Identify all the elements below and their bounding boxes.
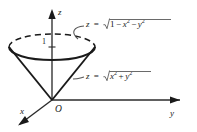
- y-axis-label: y: [169, 108, 174, 118]
- leader-line-lower: [73, 77, 84, 79]
- y-axis: [52, 97, 180, 104]
- x-axis-arrow-icon: [18, 116, 29, 126]
- plus-sign: +: [119, 71, 124, 81]
- hemisphere-radicand: 1−x2−y2: [110, 18, 145, 29]
- z-axis-label: z: [57, 7, 62, 17]
- y-axis-arrow-icon: [170, 97, 180, 104]
- hemisphere-equation-label: z = 1−x2−y2: [86, 18, 145, 29]
- hemisphere-radical: 1−x2−y2: [103, 18, 145, 29]
- x-axis-label: x: [19, 106, 24, 116]
- radical-overbar: [109, 19, 171, 20]
- figure-container: z y x 1 O z = 1−x2−y2 z = x2+y2: [0, 0, 197, 132]
- cone-radicand: x2+y2: [110, 70, 132, 81]
- term-one: 1: [110, 19, 115, 29]
- cone-left-generator: [9, 47, 52, 100]
- z-axis-arrow-icon: [48, 9, 55, 19]
- minus-sign-1: −: [116, 19, 121, 29]
- z-axis: [48, 9, 55, 100]
- radical-sign-icon: [103, 70, 110, 81]
- origin-label: O: [55, 104, 62, 114]
- cone-equation-label: z = x2+y2: [86, 70, 132, 81]
- radical-sign-icon: [103, 18, 110, 29]
- hemisphere-equals: =: [94, 19, 99, 29]
- radical-overbar: [109, 71, 151, 72]
- cone-lhs: z: [86, 71, 90, 81]
- cone-equals: =: [94, 71, 99, 81]
- minus-sign-2: −: [131, 19, 136, 29]
- hemisphere-lhs: z: [86, 19, 90, 29]
- z-tick-label-1: 1: [42, 37, 46, 46]
- cone-radical: x2+y2: [103, 70, 132, 81]
